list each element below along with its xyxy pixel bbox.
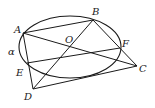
label-alpha: α (8, 46, 15, 57)
segment-BD (33, 20, 93, 89)
label-E: E (15, 67, 24, 78)
label-F: F (121, 38, 130, 49)
geometry-figure: A B O F C α E D (0, 0, 155, 108)
segment-AB (23, 20, 93, 33)
label-O: O (65, 34, 73, 45)
label-A: A (13, 24, 21, 35)
segment-DC (33, 66, 137, 89)
label-D: D (23, 91, 32, 102)
segment-BC (93, 20, 137, 66)
segment-EF (27, 48, 120, 63)
label-C: C (139, 63, 147, 74)
label-B: B (91, 6, 99, 17)
